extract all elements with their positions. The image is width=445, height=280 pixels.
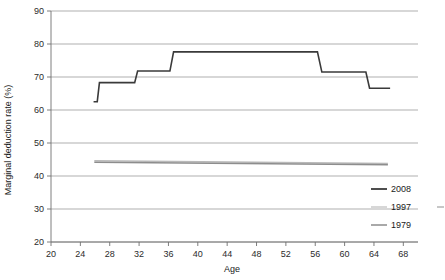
y-tick-label: 60 <box>34 105 44 115</box>
x-tick-marks-group <box>51 242 403 246</box>
x-tick-label: 44 <box>222 249 232 259</box>
legend-label-1979: 1979 <box>391 220 411 230</box>
data-series-group <box>94 52 391 165</box>
x-tick-labels-group: 20242832364044485256606468 <box>46 249 408 259</box>
legend-label-2008: 2008 <box>391 184 411 194</box>
x-tick-label: 28 <box>105 249 115 259</box>
x-tick-label: 48 <box>252 249 262 259</box>
x-axis-title: Age <box>224 264 240 274</box>
legend-label-1997: 1997 <box>391 202 411 212</box>
chart-container: 2030405060708090 20242832364044485256606… <box>0 0 445 280</box>
x-tick-label: 24 <box>75 249 85 259</box>
y-tick-label: 20 <box>34 237 44 247</box>
legend-group: 200819971979 <box>371 184 444 230</box>
x-tick-label: 32 <box>134 249 144 259</box>
x-tick-label: 56 <box>310 249 320 259</box>
y-tick-label: 40 <box>34 171 44 181</box>
y-tick-label: 70 <box>34 72 44 82</box>
x-tick-label: 52 <box>281 249 291 259</box>
y-tick-label: 90 <box>34 6 44 16</box>
y-tick-label: 80 <box>34 39 44 49</box>
y-tick-label: 50 <box>34 138 44 148</box>
y-tick-label: 30 <box>34 204 44 214</box>
x-tick-label: 64 <box>369 249 379 259</box>
x-tick-label: 36 <box>163 249 173 259</box>
x-tick-label: 40 <box>193 249 203 259</box>
y-tick-marks-group <box>47 11 51 242</box>
marginal-deduction-rate-line-chart: 2030405060708090 20242832364044485256606… <box>0 0 445 280</box>
y-axis-title: Marginal deduction rate (%) <box>3 85 13 196</box>
x-tick-label: 20 <box>46 249 56 259</box>
gridlines-group <box>51 11 418 242</box>
x-tick-label: 68 <box>398 249 408 259</box>
y-tick-labels-group: 2030405060708090 <box>34 6 44 247</box>
x-tick-label: 60 <box>340 249 350 259</box>
